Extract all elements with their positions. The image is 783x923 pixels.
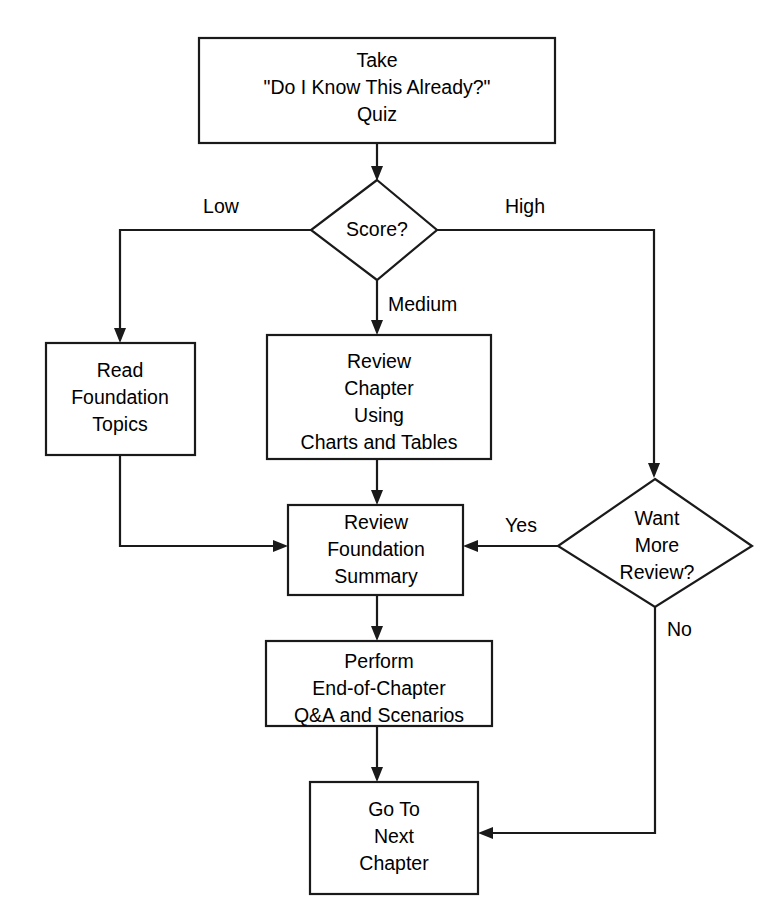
node-label-line-3: Q&A and Scenarios — [294, 704, 464, 726]
node-want-more-review[interactable]: Want More Review? — [558, 479, 752, 607]
arrow-head-icon — [371, 320, 383, 335]
arrow-head-icon — [371, 490, 383, 505]
node-label-line-3: Review? — [620, 561, 695, 583]
node-label-line-3: Topics — [92, 413, 148, 435]
node-label-line-2: More — [635, 534, 679, 556]
node-label-line-1: Want — [635, 507, 680, 529]
arrow-head-icon — [371, 626, 383, 641]
node-label-line-2: Chapter — [344, 377, 414, 399]
node-label-line-1: Score? — [346, 218, 408, 240]
edge-label-high: High — [505, 195, 545, 217]
node-label-line-2: Foundation — [327, 538, 425, 560]
node-label-line-3: Using — [354, 404, 404, 426]
node-label-line-1: Read — [97, 359, 144, 381]
node-label-line-2: End-of-Chapter — [312, 677, 446, 699]
node-label-line-1: Go To — [368, 798, 420, 820]
flowchart-canvas: Take "Do I Know This Already?" Quiz Scor… — [0, 0, 783, 923]
edge-label-yes: Yes — [505, 514, 537, 536]
node-label-line-3: Quiz — [357, 103, 397, 125]
edge-line — [120, 230, 311, 333]
arrow-head-icon — [648, 463, 660, 478]
edge-label-low: Low — [203, 195, 240, 217]
node-label-line-2: Next — [374, 825, 415, 847]
arrow-head-icon — [273, 540, 288, 552]
edge-takequiz-to-score — [371, 143, 383, 181]
node-perform-qa[interactable]: Perform End-of-Chapter Q&A and Scenarios — [266, 641, 492, 726]
node-label-line-4: Charts and Tables — [301, 431, 458, 453]
node-label-line-1: Review — [344, 511, 409, 533]
edge-wantmore-no — [478, 607, 655, 839]
edge-score-medium — [371, 280, 383, 335]
arrow-head-icon — [463, 540, 478, 552]
flowchart-diagram: Take "Do I Know This Already?" Quiz Scor… — [0, 0, 783, 923]
edge-label-no: No — [667, 618, 692, 640]
edge-performqa-to-nextchapter — [371, 726, 383, 782]
edge-summary-to-performqa — [371, 595, 383, 641]
edge-line — [120, 455, 278, 546]
edge-readtopics-to-summary — [120, 455, 288, 552]
arrow-head-icon — [478, 827, 493, 839]
node-take-quiz[interactable]: Take "Do I Know This Already?" Quiz — [199, 38, 555, 143]
node-label-line-3: Summary — [334, 565, 418, 587]
node-label-line-1: Review — [347, 350, 412, 372]
node-go-to-next-chapter[interactable]: Go To Next Chapter — [310, 782, 478, 894]
edge-wantmore-yes — [463, 540, 558, 552]
node-label-line-3: Chapter — [359, 852, 429, 874]
edge-reviewchapter-to-summary — [371, 459, 383, 505]
node-read-foundation-topics[interactable]: Read Foundation Topics — [46, 343, 195, 455]
node-label-line-1: Perform — [344, 650, 413, 672]
arrow-head-icon — [114, 328, 126, 343]
edge-score-low — [114, 230, 311, 343]
node-label-line-1: Take — [356, 49, 397, 71]
node-review-chapter[interactable]: Review Chapter Using Charts and Tables — [267, 335, 491, 459]
node-score-decision[interactable]: Score? — [311, 180, 437, 280]
edge-label-medium: Medium — [388, 293, 457, 315]
edge-line — [488, 607, 655, 833]
node-review-foundation-summary[interactable]: Review Foundation Summary — [288, 505, 463, 595]
arrow-head-icon — [371, 767, 383, 782]
node-label-line-2: "Do I Know This Already?" — [263, 76, 490, 98]
node-label-line-2: Foundation — [71, 386, 169, 408]
